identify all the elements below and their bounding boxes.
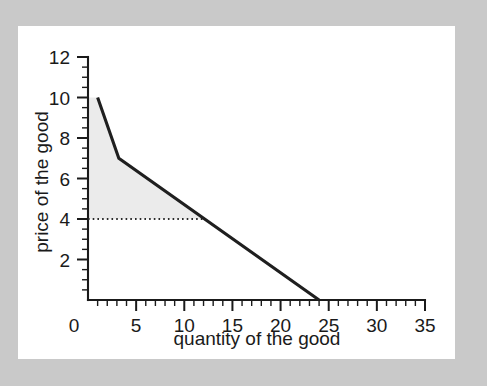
y-tick-label: 4: [59, 209, 70, 230]
chart-figure: 24681012 05101520253035 quantity of the …: [0, 0, 487, 386]
y-tick-label: 8: [59, 128, 70, 149]
y-axis-title: price of the good: [31, 111, 52, 253]
x-axis-title: quantity of the good: [174, 328, 341, 349]
x-axis-major-ticks: [136, 300, 425, 311]
y-tick-label: 6: [59, 169, 70, 190]
y-tick-label: 10: [49, 88, 70, 109]
x-tick-label: 0: [69, 315, 80, 336]
y-tick-label: 2: [59, 250, 70, 271]
x-tick-label: 30: [366, 315, 387, 336]
y-axis: 24681012: [49, 47, 88, 300]
x-tick-label: 5: [131, 315, 142, 336]
x-tick-label: 35: [414, 315, 435, 336]
y-tick-label: 12: [49, 47, 70, 68]
y-axis-tick-labels: 24681012: [49, 47, 71, 271]
chart-page: 24681012 05101520253035 quantity of the …: [0, 0, 487, 386]
